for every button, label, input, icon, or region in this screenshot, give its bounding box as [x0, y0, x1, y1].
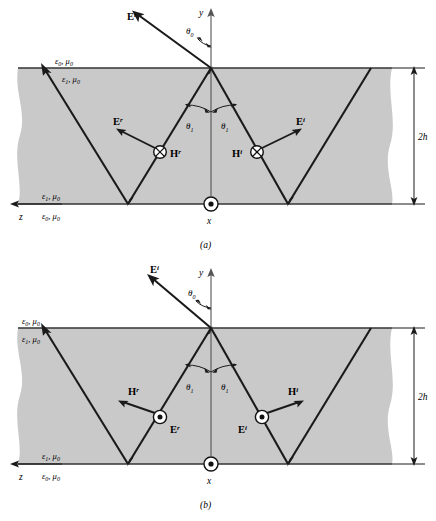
panel-caption-b: (b) [200, 500, 211, 511]
E-incident-top-label-a: Ei [127, 11, 136, 23]
panel-caption-a: (a) [200, 240, 211, 251]
theta0-arc-a [198, 39, 212, 47]
incident-ray-arrowhead-b [147, 274, 160, 286]
H-incident-symbol-a [251, 146, 264, 159]
dimension-label-a: 2h [418, 132, 428, 142]
theta0-label-a: θ0 [186, 26, 193, 38]
x-axis-symbol-b [204, 457, 218, 471]
slab-region-b [17, 328, 393, 464]
media-bottom-outside-b: ε0, μ0 [42, 471, 60, 482]
theta0-label-b: θ0 [188, 288, 195, 300]
panel-a: z y θ0 θ1 θ1 Ei [0, 0, 436, 260]
panel-b: z y θ0 θ1 θ1 Ei Er Hr [0, 260, 436, 521]
H-reflected-symbol-a [154, 146, 167, 159]
z-axis-label-b: z [18, 472, 23, 482]
x-axis-symbol-a [204, 197, 218, 211]
x-axis-label-a: x [206, 216, 212, 226]
E-incident-symbol-b [255, 410, 268, 423]
media-top-outside-b: ε0, μ0 [22, 316, 40, 327]
incident-ray-above-b [152, 278, 211, 328]
y-axis-label-b: y [198, 268, 204, 278]
media-top-outside-a: ε0, μ0 [55, 56, 73, 67]
E-incident-top-label-b: Ei [150, 264, 159, 276]
media-bottom-outside-a: ε0, μ0 [42, 211, 60, 222]
panel-a-canvas: z y θ0 θ1 θ1 Ei [0, 0, 436, 260]
slab-region-a [17, 68, 393, 204]
y-axis-label-a: y [198, 8, 204, 18]
E-reflected-symbol-b [153, 410, 166, 423]
x-axis-label-b: x [206, 476, 212, 486]
dimension-label-b: 2h [418, 392, 428, 402]
panel-b-canvas: z y θ0 θ1 θ1 Ei Er Hr [0, 260, 436, 521]
figure-container: z y θ0 θ1 θ1 Ei [0, 0, 436, 521]
z-axis-label-a: z [18, 212, 23, 222]
